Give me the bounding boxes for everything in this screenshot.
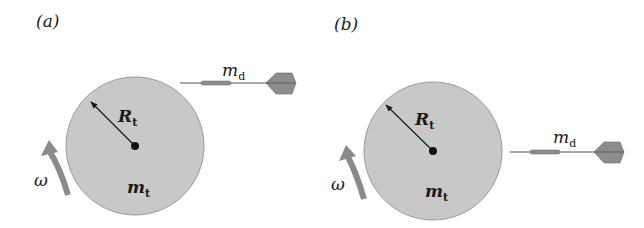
dart-mass-label: md — [553, 127, 576, 150]
rotation-arrow-icon — [50, 152, 68, 195]
panel-a-label: (a) — [36, 11, 59, 31]
omega-label: ω — [331, 174, 345, 194]
center-pivot-icon — [429, 147, 437, 155]
rotation-arrowhead-icon — [41, 140, 58, 156]
diagram-stage: (a) Rt mt ω md (b) Rt mt — [0, 0, 644, 228]
rotation-arrow-icon — [348, 157, 364, 199]
panel-b-label: (b) — [334, 14, 358, 34]
dart-mass-label: md — [222, 60, 245, 83]
panel-b: (b) Rt mt ω md — [331, 14, 624, 220]
diagram-canvas: (a) Rt mt ω md (b) Rt mt — [0, 0, 644, 228]
panel-a: (a) Rt mt ω md — [34, 11, 296, 215]
omega-label: ω — [34, 170, 48, 190]
center-pivot-icon — [131, 142, 139, 150]
